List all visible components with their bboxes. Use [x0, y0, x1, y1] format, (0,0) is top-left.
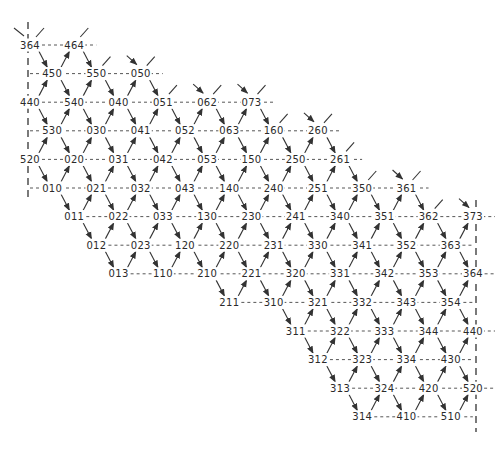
- state-label: 042: [153, 154, 173, 165]
- transition-arrow-down-right: [150, 194, 158, 210]
- transition-arrow-up-right: [349, 309, 357, 325]
- transition-arrow-up-right: [283, 166, 291, 182]
- state-label: 033: [153, 211, 173, 222]
- outgoing-stub-line: [435, 200, 443, 209]
- state-label: 150: [242, 154, 262, 165]
- transition-arrow-down-right: [438, 280, 446, 296]
- transition-arrow-up-right: [238, 280, 246, 296]
- transition-arrow-up-right: [216, 252, 224, 268]
- state-label: 031: [109, 154, 129, 165]
- transition-arrow-up-right: [283, 223, 291, 239]
- outgoing-stub-line: [346, 142, 354, 151]
- transition-arrow-down-right: [349, 166, 357, 182]
- transition-arrow-down-right: [194, 137, 202, 153]
- state-label: 221: [242, 268, 262, 279]
- state-label: 420: [419, 383, 439, 394]
- transition-arrow-down-right: [61, 80, 69, 96]
- transition-arrow-up-right: [150, 166, 158, 182]
- transition-arrow-up-right: [260, 137, 268, 153]
- transition-arrow-down-right: [260, 109, 268, 125]
- transition-arrow-down-right: [327, 137, 335, 153]
- transition-arrow-down-right: [105, 80, 113, 96]
- state-label: 331: [330, 268, 350, 279]
- transition-arrow-down-right: [327, 252, 335, 268]
- transition-arrow-up-right: [194, 223, 202, 239]
- transition-arrow-down-right: [438, 223, 446, 239]
- state-label: 130: [197, 211, 217, 222]
- transition-arrow-down-right: [349, 223, 357, 239]
- state-label: 040: [109, 97, 129, 108]
- transition-arrow-up-right: [39, 137, 47, 153]
- outgoing-stub-line: [324, 114, 332, 123]
- transition-arrow-up-right: [460, 223, 468, 239]
- transition-arrow-up-right: [238, 166, 246, 182]
- transition-arrow-up-right: [371, 280, 379, 296]
- transition-arrow-down-right: [371, 366, 379, 382]
- transition-arrow-down-right: [83, 166, 91, 182]
- transition-arrow-down-right: [305, 337, 313, 353]
- transition-arrow-up-right: [393, 194, 401, 210]
- state-label: 231: [264, 240, 284, 251]
- transition-arrow-down-right: [415, 366, 423, 382]
- transition-arrow-up-right: [460, 280, 468, 296]
- transition-arrow-down-right: [61, 137, 69, 153]
- transition-arrow-up-right: [349, 194, 357, 210]
- state-label: 032: [131, 183, 151, 194]
- state-label: 013: [109, 268, 129, 279]
- transition-arrow-up-right: [327, 223, 335, 239]
- state-label: 251: [308, 183, 328, 194]
- transition-arrow-down-right: [438, 395, 446, 411]
- transition-arrow-up-right: [127, 194, 135, 210]
- state-label: 321: [308, 297, 328, 308]
- transition-arrow-down-right: [39, 51, 47, 67]
- transition-arrow-down-right: [260, 223, 268, 239]
- transition-arrow-up-right: [327, 280, 335, 296]
- transition-arrow-up-right: [438, 366, 446, 382]
- state-label: 440: [20, 97, 40, 108]
- transition-arrow-down-right: [260, 166, 268, 182]
- transition-arrow-up-right: [415, 223, 423, 239]
- state-label: 210: [197, 268, 217, 279]
- state-label: 343: [397, 297, 417, 308]
- transition-arrow-up-right: [39, 80, 47, 96]
- state-label: 353: [419, 268, 439, 279]
- state-label: 062: [197, 97, 217, 108]
- transition-arrow-up-right: [150, 223, 158, 239]
- transition-arrow-up-right: [150, 109, 158, 125]
- state-label: 160: [264, 125, 284, 136]
- transition-arrow-down-right: [172, 166, 180, 182]
- state-label: 240: [264, 183, 284, 194]
- transition-arrow-up-right: [460, 395, 468, 411]
- state-label: 341: [352, 240, 372, 251]
- transition-arrow-down-right: [415, 252, 423, 268]
- state-label: 510: [441, 411, 461, 422]
- state-label: 364: [463, 268, 483, 279]
- transition-arrow-up-right: [371, 223, 379, 239]
- transition-arrow-up-right: [105, 109, 113, 125]
- transition-arrow-down-right: [283, 252, 291, 268]
- state-label: 520: [463, 383, 483, 394]
- transition-arrow-down-right: [127, 166, 135, 182]
- transition-arrow-down-right: [238, 137, 246, 153]
- transition-arrow-down-right: [127, 109, 135, 125]
- transition-arrow-up-right: [438, 252, 446, 268]
- state-label: 450: [42, 68, 62, 79]
- state-label: 052: [175, 125, 195, 136]
- state-label: 010: [42, 183, 62, 194]
- transition-arrow-down-right: [172, 223, 180, 239]
- transition-arrow-up-right: [61, 109, 69, 125]
- transition-arrow-down-right: [393, 337, 401, 353]
- state-label: 312: [308, 354, 328, 365]
- transition-arrow-up-right: [83, 194, 91, 210]
- transition-arrow-up-right: [438, 309, 446, 325]
- state-label: 410: [397, 411, 417, 422]
- state-label: 314: [352, 411, 372, 422]
- incoming-stub-arrow: [238, 84, 248, 93]
- incoming-stub-arrow: [304, 113, 314, 122]
- state-label: 320: [286, 268, 306, 279]
- state-label: 322: [330, 326, 350, 337]
- transition-arrow-down-right: [349, 395, 357, 411]
- state-label: 310: [264, 297, 284, 308]
- transition-arrow-down-right: [393, 395, 401, 411]
- transition-arrow-up-right: [349, 366, 357, 382]
